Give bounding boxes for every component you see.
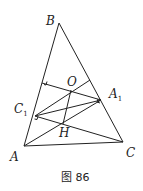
side-AC [24,142,123,146]
label-C: C [126,146,135,160]
label-H: H [58,126,70,140]
line-C1-PBC [35,80,90,116]
side-AB [24,23,59,146]
label-C1: C1 [14,102,28,118]
right-angle-mark-C1 [35,117,39,120]
figure-caption: 图 86 [61,171,90,184]
label-O: O [67,75,77,89]
label-A1: A1 [108,87,122,103]
line-C1-C [35,116,123,142]
geometry-figure: B O C1 A1 H A C 图 86 [0,0,143,191]
label-A: A [9,150,19,164]
label-B: B [45,14,55,28]
